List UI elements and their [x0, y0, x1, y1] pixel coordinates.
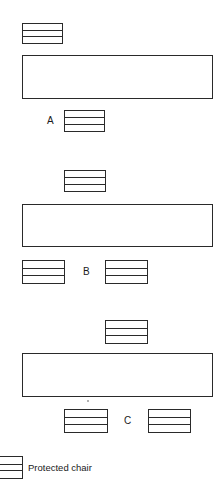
chair-b-top	[64, 170, 106, 192]
chair-c-top	[105, 320, 148, 344]
table-c	[22, 353, 213, 397]
legend-protected-chair-icon	[0, 456, 23, 479]
arrangement-label-a: A	[47, 115, 54, 127]
arrangement-label-b: B	[83, 266, 90, 278]
chair-b-bottom-left	[22, 260, 65, 284]
arrangement-label-c: C	[124, 415, 131, 427]
chair-a-bottom	[64, 110, 105, 132]
chair-a-top	[22, 23, 63, 44]
chair-c-bottom-right	[148, 409, 191, 433]
table-a	[22, 55, 213, 99]
table-b	[22, 204, 213, 247]
legend-label: Protected chair	[28, 462, 92, 474]
chair-b-bottom-right	[105, 260, 148, 284]
chair-c-bottom-left	[64, 409, 108, 433]
stray-mark	[87, 400, 89, 402]
